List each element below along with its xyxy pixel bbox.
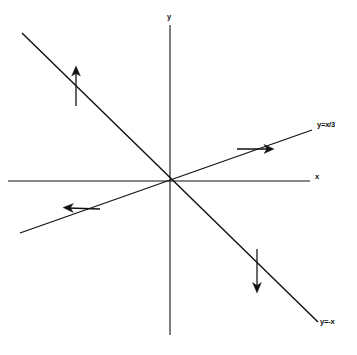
arrow-up-left-quadrant bbox=[72, 66, 81, 106]
plot-canvas bbox=[0, 0, 357, 355]
arrow-down-lower-right-quadrant bbox=[253, 249, 262, 293]
y-axis-label: y bbox=[167, 13, 171, 21]
x-axis-label: x bbox=[315, 173, 319, 181]
line-label-y-equals-x-over-3: y=x/3 bbox=[317, 121, 335, 129]
line-label-y-equals-minus-x: y=-x bbox=[320, 318, 334, 326]
phase-plane-figure: x y y=x/3 y=-x bbox=[0, 0, 357, 355]
